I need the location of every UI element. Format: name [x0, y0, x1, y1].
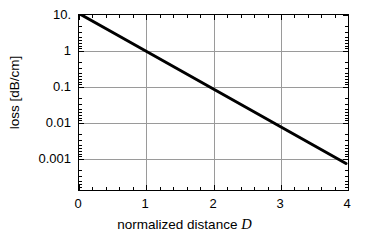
x-tick-label-4: 4	[332, 196, 362, 211]
y-tick-label-10: 10.	[9, 8, 71, 21]
x-tick-label-1: 1	[130, 196, 160, 211]
y-tick-label-0p001: 0.001	[9, 152, 71, 165]
chart-figure: loss [dB/cm] 10. 1 0.1 0.01 0.001	[0, 0, 369, 242]
y-tick-label-0p01: 0.01	[9, 116, 71, 129]
x-axis-title-text: normalized distance	[117, 217, 237, 232]
x-axis-title-symbol: D	[241, 216, 251, 232]
x-tick-label-3: 3	[265, 196, 295, 211]
x-axis-title: normalized distance D	[0, 216, 369, 233]
plot-area	[78, 14, 349, 191]
x-tick-label-2: 2	[198, 196, 228, 211]
loss-curve	[79, 15, 346, 164]
plot-inner	[79, 15, 348, 190]
data-series-loss	[79, 15, 348, 190]
y-tick-label-0p1: 0.1	[9, 80, 71, 93]
x-tick-label-0: 0	[63, 196, 93, 211]
y-tick-label-1: 1	[9, 44, 71, 57]
